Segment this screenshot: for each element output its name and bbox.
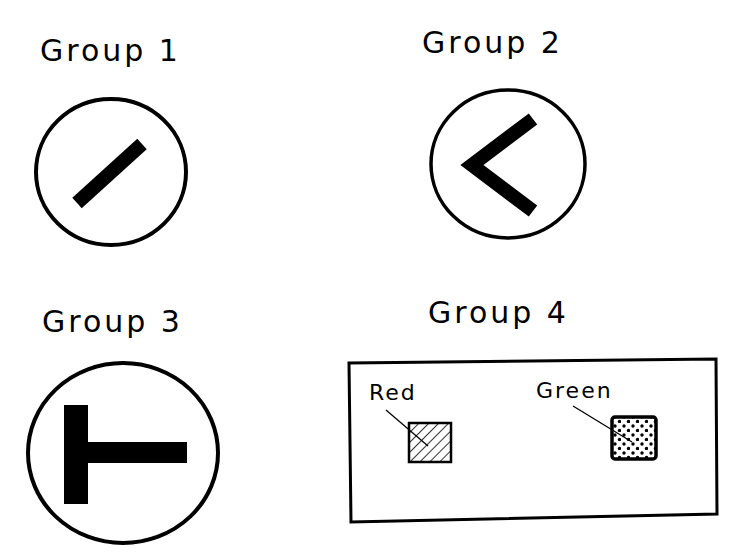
t-vertical-bar-icon bbox=[64, 405, 88, 504]
legend-frame bbox=[349, 359, 717, 522]
group-1-symbol bbox=[36, 99, 186, 245]
group-3-symbol bbox=[28, 363, 218, 543]
red-swatch-hatched bbox=[409, 423, 451, 462]
group-2-symbol bbox=[431, 90, 585, 238]
diagonal-slash-icon bbox=[77, 144, 142, 203]
green-swatch-dotted bbox=[612, 417, 656, 459]
t-horizontal-bar-icon bbox=[88, 442, 187, 463]
left-chevron-icon bbox=[472, 119, 533, 211]
diagram-canvas bbox=[0, 0, 740, 554]
group-4-legend bbox=[349, 359, 717, 522]
circle-outline-icon bbox=[431, 90, 585, 238]
